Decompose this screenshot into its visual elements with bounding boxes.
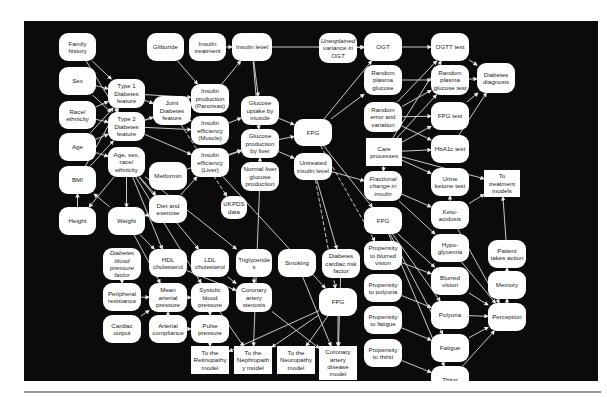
- node-label: Random plasma glucose: [371, 69, 394, 91]
- node-label: Untreated insulin level: [297, 159, 329, 174]
- node-label: Joint Diabetes feature: [160, 99, 184, 121]
- node-fatigue: Fatigue: [431, 334, 469, 362]
- node-label: Propensity to polyuria: [368, 281, 397, 296]
- node-to-cad: Coronary artery disease model: [319, 346, 357, 380]
- node-label: Diabetes blood pressure factor: [110, 249, 134, 279]
- node-label: Insulin level: [236, 43, 268, 50]
- node-ins-eff-l: Insulin efficiency (Liver): [191, 148, 229, 177]
- node-label: Normal liver glucose production: [243, 165, 276, 187]
- node-diab-dx: Diabetes diagnosis: [477, 63, 515, 93]
- node-ogtt: OGTT test: [431, 33, 469, 61]
- edge-ins_eff_l-to-gluc_prod: [229, 151, 241, 156]
- bottom-rule: [24, 391, 601, 393]
- node-label: FPG: [332, 298, 345, 305]
- edge-prop_poly-to-polyuria: [402, 296, 431, 308]
- edge-polyuria-to-perception: [469, 316, 488, 317]
- node-normal-liver: Normal liver glucose production: [241, 162, 279, 191]
- edge-race-to-t1: [96, 102, 108, 107]
- node-label: Triglyceride s: [238, 256, 270, 271]
- node-hba1c: HbA1c test: [431, 135, 469, 163]
- node-sbp: Systolic blood pressure: [191, 283, 229, 312]
- node-rand-err: Random error and variation: [364, 102, 402, 132]
- node-fpg3: FPG: [319, 288, 357, 316]
- edge-untreated-to-frac: [332, 172, 364, 181]
- node-polyuria: Polyuria: [431, 301, 469, 329]
- node-label: FPG: [307, 129, 320, 136]
- edge-prop_fat-to-fatigue: [402, 328, 431, 340]
- node-label: Sex: [72, 77, 83, 84]
- node-label: Thirst: [442, 376, 457, 381]
- edge-weight-to-hdl: [140, 235, 154, 249]
- node-label: Random plasma glucose test: [433, 69, 466, 91]
- node-keto: Keto- acidosis: [431, 201, 469, 229]
- node-label: Height: [69, 217, 87, 224]
- node-pulse: Pulse pressure: [191, 315, 229, 343]
- node-label: Polyuria: [439, 311, 461, 318]
- node-to-retino: To the Retinopathy model: [191, 346, 229, 374]
- node-insulin-level: Insulin level: [232, 33, 272, 61]
- node-glibur: Gliburide: [147, 33, 184, 61]
- node-urine: Urine ketone test: [431, 168, 469, 196]
- node-label: Fractional change in insulin: [369, 175, 396, 197]
- node-label: HbA1c test: [435, 145, 465, 152]
- node-gluc-prod: Glucose production by liver: [241, 129, 279, 158]
- node-ukpds: UKPDS data: [221, 196, 247, 219]
- node-diet: Diet and exercise: [149, 195, 187, 223]
- node-label: Propensity to thirst: [368, 346, 397, 361]
- edge-t2-to-ins_eff_l: [145, 134, 191, 154]
- node-fpg-test: FPG test: [431, 102, 469, 130]
- edge-cardiac-to-map: [141, 311, 149, 316]
- node-label: To the Neuropathy model: [280, 349, 312, 371]
- node-label: Glucose production by liver: [246, 132, 275, 154]
- node-care: Care processes: [366, 138, 402, 166]
- node-label: LDL cholesterol: [195, 256, 225, 271]
- node-label: OGTT test: [436, 43, 465, 50]
- edge-prop_blur-to-blurred: [402, 263, 431, 274]
- node-label: Patient takes action: [490, 247, 523, 262]
- edge-gluc_prod-to-untreated: [279, 152, 294, 159]
- node-label: Peripheral resistance: [108, 290, 136, 305]
- node-label: Smoking: [285, 259, 309, 266]
- node-to-treat: To treatment models: [484, 170, 520, 197]
- edge-frac-to-keto: [402, 194, 431, 207]
- node-ins-eff-m: Insulin efficiency (Muscle): [191, 116, 229, 145]
- edge-patient-to-to_treat: [503, 197, 506, 240]
- node-label: Diabetes cardiac risk factor: [325, 252, 356, 274]
- node-label: Metformin: [154, 172, 182, 179]
- node-gluc-up: Glucose uptake by muscle: [241, 96, 279, 125]
- node-label: BMI: [72, 176, 83, 183]
- node-t1: Type 1 Diabetes feature: [108, 79, 145, 108]
- edge-fpg_test-to-diab_dx: [467, 93, 478, 102]
- diagram-canvas: Family historySexRace/ ethnicityAgeBMIHe…: [24, 21, 598, 381]
- edge-t2-to-ins_eff_m: [145, 127, 191, 129]
- edge-care-to-fpg_test: [402, 126, 431, 142]
- node-label: Fatigue: [440, 344, 461, 351]
- edge-fpg2-to-blurred: [398, 234, 435, 267]
- node-prop-poly: Propensity to polyuria: [364, 274, 402, 302]
- node-label: Care processes: [370, 145, 398, 160]
- node-joint: Joint Diabetes feature: [153, 96, 191, 125]
- edge-keto-to-to_treat: [469, 194, 484, 203]
- node-label: Diabetes diagnosis: [483, 71, 509, 86]
- node-trig: Triglyceride s: [236, 249, 272, 277]
- node-bmi: BMI: [59, 166, 96, 194]
- node-label: UKPDS data: [223, 200, 244, 215]
- node-label: Age: [72, 143, 83, 150]
- node-to-nephro: To the Nephropath y model: [234, 346, 272, 374]
- node-coronary-sten: Coronary artery stenosis: [236, 283, 272, 312]
- edge-t1-to-joint: [145, 100, 153, 103]
- edge-ogtt-to-diab_dx: [469, 60, 477, 65]
- node-label: FPG: [377, 217, 390, 224]
- node-label: Propensity to fatigue: [368, 313, 397, 328]
- node-insulin-treatment: Insulin treatment: [189, 33, 226, 61]
- node-label: Weight: [117, 217, 136, 224]
- node-weight: Weight: [108, 207, 145, 235]
- node-label: Random error and variation: [370, 106, 395, 128]
- node-label: Urine ketone test: [435, 175, 465, 190]
- node-metformin: Metformin: [149, 162, 187, 190]
- node-hdl: HDL cholesterol: [149, 249, 187, 277]
- node-prop-fat: Propensity to fatigue: [364, 306, 402, 334]
- node-art-comp: Arterial compliance: [149, 315, 187, 343]
- node-label: FPG test: [438, 112, 462, 119]
- node-ogt: OGT: [364, 33, 402, 61]
